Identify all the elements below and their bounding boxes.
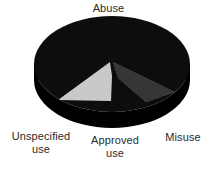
pie-label-abuse: Abuse — [0, 2, 217, 15]
pie-label-misuse: Misuse — [152, 131, 214, 144]
pie-label-unspecified-use: Unspecified use — [2, 130, 80, 155]
pie-chart-figure: Abuse Unspecified use Approved use Misus… — [0, 0, 217, 171]
pie-label-approved-use: Approved use — [79, 134, 151, 159]
pie-top-face — [34, 16, 190, 112]
slice-abuse — [34, 16, 190, 112]
